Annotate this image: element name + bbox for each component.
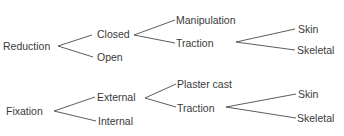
edge-fixation-internal	[54, 111, 96, 121]
node-open: Open	[97, 51, 123, 63]
node-skin: Skin	[298, 23, 319, 35]
fracture-treatment-diagram: Reduction Closed Open Manipulation Tract…	[0, 0, 344, 136]
node-traction: Traction	[177, 102, 215, 114]
edge-external-plaster-cast	[145, 84, 176, 98]
node-skin: Skin	[298, 88, 319, 100]
node-skeletal: Skeletal	[297, 112, 334, 124]
fixation-tree: Fixation External Internal Plaster cast …	[6, 78, 334, 127]
node-fixation: Fixation	[6, 105, 43, 117]
edge-traction-skin	[226, 94, 296, 107]
reduction-tree: Reduction Closed Open Manipulation Tract…	[3, 14, 334, 63]
node-plaster-cast: Plaster cast	[177, 78, 232, 90]
edge-reduction-closed	[58, 35, 92, 46]
node-skeletal: Skeletal	[297, 44, 334, 56]
edge-traction-skin	[236, 29, 295, 42]
edge-external-traction	[145, 98, 176, 107]
edge-closed-manipulation	[134, 20, 175, 35]
edge-traction-skeletal	[236, 42, 295, 50]
edge-fixation-external	[54, 97, 95, 111]
node-external: External	[97, 91, 136, 103]
edge-reduction-open	[58, 46, 93, 57]
node-closed: Closed	[97, 28, 130, 40]
node-reduction: Reduction	[3, 40, 50, 52]
node-traction: Traction	[176, 37, 214, 49]
node-internal: Internal	[98, 115, 133, 127]
edge-closed-traction	[134, 35, 175, 43]
edge-traction-skeletal	[226, 107, 296, 118]
node-manipulation: Manipulation	[176, 14, 236, 26]
